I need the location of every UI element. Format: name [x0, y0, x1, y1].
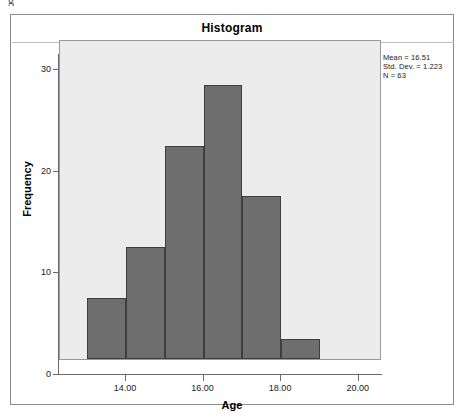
- y-axis-tick-label: 10: [25, 268, 51, 277]
- scan-edge-artifact: g: [8, 0, 22, 6]
- x-axis-tick-label: 14.00: [100, 383, 150, 393]
- stat-mean: Mean = 16.51: [383, 53, 453, 62]
- x-axis-line: [59, 374, 382, 375]
- y-axis-tick: [53, 272, 59, 273]
- y-axis-tick: [53, 171, 59, 172]
- histogram-bar: [204, 85, 243, 359]
- y-axis-line: [58, 54, 59, 374]
- x-axis-title: Age: [11, 399, 453, 411]
- x-axis-tick: [280, 375, 281, 381]
- y-axis-title: Frequency: [21, 129, 33, 249]
- x-axis-tick-label: 20.00: [333, 383, 383, 393]
- y-axis-tick-label: 30: [25, 65, 51, 74]
- stat-n: N = 63: [383, 71, 453, 80]
- histogram-bar: [87, 298, 126, 359]
- histogram-bars: [60, 41, 380, 359]
- histogram-bar: [165, 146, 204, 359]
- x-axis-tick-label: 16.00: [178, 383, 228, 393]
- x-axis-tick-label: 18.00: [255, 383, 305, 393]
- plot-area: [59, 40, 381, 360]
- y-axis-tick-label: 0: [25, 370, 51, 379]
- histogram-bar: [281, 339, 320, 359]
- chart-figure-frame: Histogram 0102030 Frequency 14.0016.0018…: [10, 14, 454, 405]
- histogram-bar: [242, 196, 281, 359]
- statistics-annotation: Mean = 16.51 Std. Dev. = 1.223 N = 63: [383, 53, 453, 80]
- x-axis-tick: [358, 375, 359, 381]
- histogram-bar: [126, 247, 165, 359]
- x-axis-tick: [203, 375, 204, 381]
- stat-std-dev: Std. Dev. = 1.223: [383, 62, 453, 71]
- x-axis-tick: [125, 375, 126, 381]
- y-axis-tick: [53, 69, 59, 70]
- chart-title: Histogram: [11, 21, 453, 35]
